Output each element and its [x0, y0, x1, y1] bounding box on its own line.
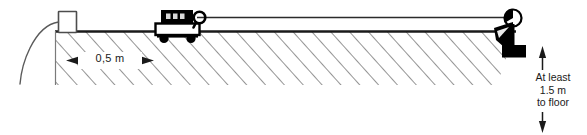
- apparatus-diagram: [0, 0, 587, 135]
- horizontal-distance-label: 0,5 m: [80, 52, 140, 64]
- sensor-cable: [20, 22, 59, 84]
- diagram-canvas: 0,5 m At least 1.5 m to floor: [0, 0, 587, 135]
- dimension-arrowhead-down: [539, 121, 546, 133]
- trolley-wheel-right: [186, 34, 195, 43]
- vertical-drop-line-3: to floor: [520, 96, 586, 109]
- trolley-top-mass-block: [161, 10, 193, 23]
- light-gate-body: [59, 12, 77, 33]
- vertical-drop-label: At least 1.5 m to floor: [520, 71, 586, 109]
- vertical-drop-line-1: At least: [520, 71, 586, 84]
- trolley-body: [156, 24, 200, 36]
- pulley-assembly: [494, 10, 522, 48]
- trolley-wheel-left: [159, 34, 168, 43]
- vertical-drop-line-2: 1.5 m: [520, 84, 586, 97]
- dimension-arrowhead-up: [539, 46, 546, 58]
- hanging-mass: [502, 45, 526, 58]
- light-gate-sensor: [59, 12, 77, 33]
